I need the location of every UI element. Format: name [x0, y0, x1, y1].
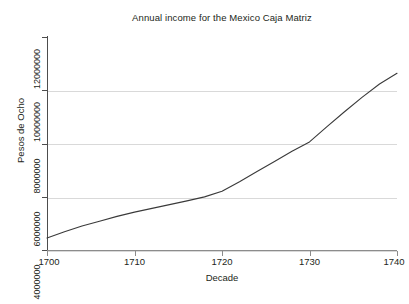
line-series-annual-income	[47, 73, 397, 238]
